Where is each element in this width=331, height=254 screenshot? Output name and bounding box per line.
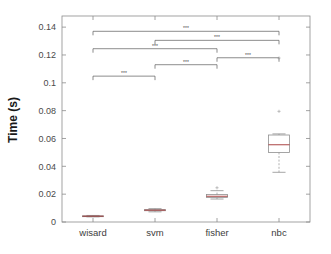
x-tick-label-wisard: wisard [78,227,106,238]
box-plots [82,56,289,216]
y-tick-label: 0.08 [38,106,56,116]
outlier-nbc-1 [277,56,280,59]
significance-bar-4 [155,65,217,69]
x-axis-ticks: wisardsvmfishernbc [78,16,287,238]
plot-border [62,16,310,222]
significance-bar-3 [217,58,279,62]
significance-bar-5 [93,76,155,80]
significance-bar-0 [93,31,279,35]
significance-bars: ****************** [93,25,279,80]
significance-label-4: *** [183,59,189,65]
y-axis-label: Time (s) [6,97,20,143]
y-axis-ticks: 00.020.040.060.080.10.120.14 [38,22,310,227]
y-tick-label: 0.1 [43,78,56,88]
y-tick-label: 0.14 [38,22,56,32]
y-tick-label: 0 [51,217,56,227]
outlier-fisher-0 [215,186,218,189]
boxplot-svg: 00.020.040.060.080.10.120.14 wisardsvmfi… [0,0,331,254]
significance-label-3: *** [245,52,251,58]
y-tick-label: 0.06 [38,134,56,144]
box-group-nbc [268,56,289,172]
y-tick-label: 0.04 [38,162,56,172]
chart-figure: 00.020.040.060.080.10.120.14 wisardsvmfi… [0,0,331,254]
y-tick-label: 0.02 [38,189,56,199]
significance-bar-2 [93,49,217,53]
box-group-fisher [206,186,227,199]
y-tick-label: 0.12 [38,50,56,60]
box-group-wisard [82,215,103,216]
significance-bar-1 [155,40,279,44]
axis-titles: Time (s) [6,97,20,143]
significance-label-1: *** [214,34,220,40]
box-group-svm [144,209,165,212]
significance-label-5: *** [121,70,127,76]
x-tick-label-fisher: fisher [205,227,228,238]
plot-frame [62,16,310,222]
x-tick-label-nbc: nbc [271,227,287,238]
box-nbc [268,135,289,152]
x-tick-label-svm: svm [146,227,164,238]
outlier-nbc-0 [277,110,280,113]
significance-label-2: *** [152,43,158,49]
significance-label-0: *** [183,25,189,31]
